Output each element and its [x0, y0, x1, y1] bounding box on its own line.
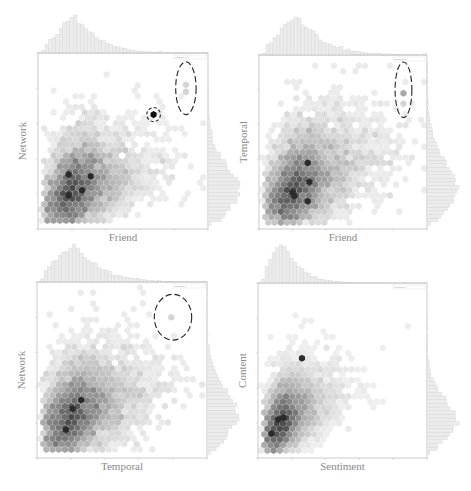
histogram-bar: [293, 262, 297, 283]
histogram-bar: [208, 126, 210, 130]
histogram-bar: [207, 330, 208, 334]
histogram-bar: [63, 23, 67, 53]
histogram-bar: [97, 268, 101, 282]
histogram-bar: [207, 421, 236, 425]
marginal-histogram-top: [258, 245, 427, 283]
histogram-bar: [207, 370, 216, 374]
histogram-bar: [207, 443, 219, 447]
histogram-bar: [354, 51, 358, 55]
histogram-bar: [208, 200, 237, 204]
histogram-bar: [427, 418, 455, 422]
histogram-bar: [297, 267, 301, 283]
histogram-bar: [91, 33, 95, 53]
histogram-bar: [307, 274, 311, 283]
histogram-bar: [427, 160, 446, 164]
histogram-bar: [208, 203, 230, 207]
y-axis-label: Temporal: [237, 121, 249, 163]
histogram-bar: [208, 130, 212, 134]
x-axis-label: Sentiment: [320, 460, 365, 472]
histogram-bar: [427, 222, 431, 226]
histogram-bar: [304, 272, 308, 283]
histogram-bar: [427, 215, 441, 219]
figure: pearsonr; pFriendNetwork pearsonr; pFrie…: [0, 0, 471, 491]
histogram-bar: [207, 359, 212, 363]
histogram-bar: [208, 218, 221, 222]
histogram-bar: [427, 400, 447, 404]
histogram-bar: [69, 248, 73, 282]
histogram-bar: [427, 367, 430, 371]
histogram-bar: [294, 17, 298, 55]
histogram-bar: [208, 137, 212, 141]
histogram-bar: [427, 113, 429, 117]
marginal-histogram-right: [427, 62, 459, 225]
correlation-annotation: pearsonr; p: [394, 286, 407, 289]
histogram-bar: [207, 385, 223, 389]
histogram-bar: [427, 128, 432, 132]
histogram-bar: [102, 41, 106, 53]
histogram-bar: [207, 436, 226, 440]
x-axis-label: Friend: [329, 231, 358, 243]
histogram-bar: [207, 366, 214, 370]
histogram-bar: [207, 410, 235, 414]
histogram-bar: [322, 42, 326, 55]
histogram-bar: [140, 280, 144, 282]
histogram-bar: [208, 156, 220, 160]
histogram-bar: [427, 381, 435, 385]
histogram-bar: [42, 50, 46, 53]
histogram-bar: [41, 279, 45, 282]
histogram-bar: [207, 432, 228, 436]
histogram-bar: [279, 245, 283, 283]
histogram-bar: [208, 141, 213, 145]
histogram-bar: [427, 109, 429, 113]
histogram-bar: [427, 204, 450, 208]
histogram-bar: [427, 135, 433, 139]
histogram-bar: [298, 18, 302, 55]
joint-plot-temporal-network: pearsonr; pTemporalNetwork: [15, 244, 239, 472]
histogram-bar: [101, 269, 105, 282]
histogram-bar: [207, 451, 210, 455]
histogram-bar: [207, 440, 224, 444]
histogram-bar: [427, 157, 444, 161]
histogram-bar: [312, 31, 316, 55]
histogram-bar: [207, 374, 217, 378]
histogram-bar: [427, 171, 452, 175]
histogram-bar: [208, 211, 226, 215]
histogram-bar: [427, 138, 435, 142]
histogram-bar: [262, 279, 266, 283]
histogram-bar: [52, 38, 56, 53]
marginal-histogram-right: [207, 282, 239, 454]
histogram-bar: [427, 385, 437, 389]
histogram-bar: [325, 280, 329, 283]
histogram-bar: [208, 148, 216, 152]
histogram-bar: [207, 355, 211, 359]
histogram-bar: [112, 47, 116, 53]
histogram-bar: [427, 443, 438, 447]
marginal-histogram-right: [208, 71, 240, 225]
histogram-bar: [427, 164, 446, 168]
histogram-bar: [207, 388, 228, 392]
histogram-bar: [83, 257, 87, 282]
histogram-bar: [116, 47, 120, 53]
histogram-bar: [55, 260, 59, 282]
joint-plot-sentiment-content: pearsonr; pSentimentContent: [236, 245, 459, 472]
histogram-bar: [87, 260, 91, 282]
histogram-bar: [73, 15, 77, 53]
histogram-bar: [427, 425, 454, 429]
histogram-bar: [427, 211, 444, 215]
histogram-bar: [427, 207, 447, 211]
histogram-bar: [123, 48, 127, 53]
histogram-bar: [311, 277, 315, 283]
histogram-bar: [265, 267, 269, 283]
histogram-bar: [72, 244, 76, 282]
histogram-bar: [347, 49, 351, 55]
histogram-bar: [208, 163, 226, 167]
histogram-bar: [427, 95, 428, 99]
histogram-bar: [207, 407, 234, 411]
histogram-bar: [272, 253, 276, 283]
histogram-bar: [207, 392, 228, 396]
histogram-bar: [427, 352, 428, 356]
histogram-bar: [427, 124, 431, 128]
marginal-histogram-top: [38, 15, 208, 53]
histogram-bar: [104, 270, 108, 282]
histogram-bar: [427, 411, 455, 415]
